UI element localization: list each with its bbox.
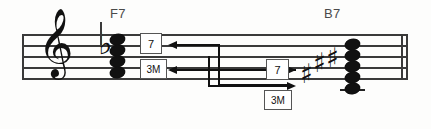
staff-line-5 <box>22 34 407 36</box>
sharp-accidental-b7-1: ♯ <box>300 60 313 87</box>
interval-box-right-third[interactable]: 3M <box>264 90 292 110</box>
connector-upper-horizontal <box>176 44 220 46</box>
interval-box-right-seventh[interactable]: 7 <box>266 59 289 80</box>
left-barline <box>22 34 24 80</box>
sharp-accidental-b7-2: ♯ <box>313 49 326 76</box>
interval-box-left-seventh[interactable]: 7 <box>140 33 162 54</box>
treble-clef-icon: 𝄞 <box>38 12 73 72</box>
arrowhead-lower-right-icon <box>287 82 296 90</box>
sharp-accidental-b7-3: ♯ <box>326 44 339 71</box>
music-notation-diagram: F7 B7 𝄞 ♭ ♯ ♯ ♯ 7 3M 7 3M <box>0 0 431 129</box>
right-barline-thick <box>406 34 408 80</box>
interval-box-left-third[interactable]: 3M <box>140 59 167 79</box>
arrowhead-middle-left-icon <box>168 66 177 74</box>
arrowhead-upper-left-icon <box>168 41 177 49</box>
right-barline-thin <box>401 34 403 80</box>
connector-upper-vertical <box>218 44 220 85</box>
flat-stem-f7 <box>100 22 102 46</box>
connector-lower-horizontal-b <box>218 84 288 86</box>
chord-label-f7: F7 <box>110 6 126 21</box>
chord-label-b7: B7 <box>324 6 341 21</box>
connector-lower-vertical <box>208 56 210 86</box>
notehead-b7-0 <box>344 82 361 96</box>
